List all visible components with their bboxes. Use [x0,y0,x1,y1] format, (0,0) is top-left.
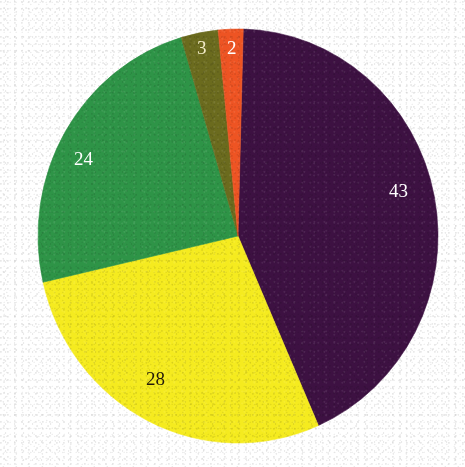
slice-value-label-2: 2 [227,38,237,57]
pie-slice-group [38,29,438,443]
slice-value-label-24: 24 [74,149,93,168]
slice-value-label-28: 28 [146,369,165,388]
slice-value-label-3: 3 [197,38,207,57]
slice-value-label-43: 43 [389,181,408,200]
pie-chart-canvas [0,0,465,467]
pie-chart-figure: 43282432 [0,0,465,467]
